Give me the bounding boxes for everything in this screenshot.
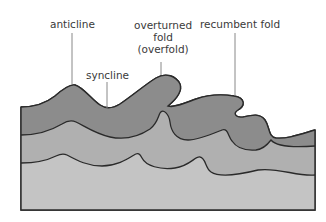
overturned-label-line1: overturned [134, 19, 192, 31]
syncline-label: syncline [86, 69, 129, 81]
recumbent-label: recumbent fold [200, 18, 280, 30]
overturned-label-line3: (overfold) [134, 43, 192, 55]
overturned-label-line2: fold [134, 31, 192, 43]
overturned-label: overturned fold (overfold) [134, 19, 192, 55]
anticline-label: anticline [50, 18, 95, 30]
